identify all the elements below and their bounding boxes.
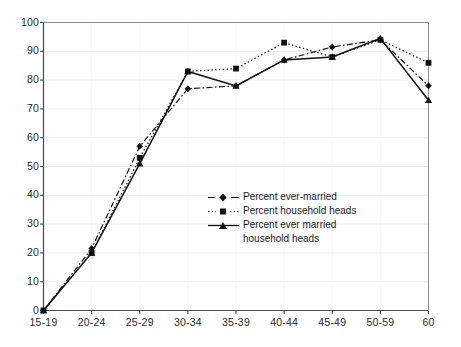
y-axis-tick-label: 30 (6, 217, 39, 229)
legend-key-square-dotted (207, 205, 241, 217)
legend-item-ever-married: Percent ever-married (207, 191, 356, 203)
y-axis-tick-label: 80 (6, 73, 39, 85)
data-point (281, 40, 287, 46)
y-axis-tick-label: 40 (6, 188, 39, 200)
chart-legend: Percent ever-married Percent household h… (207, 191, 356, 245)
y-axis-tick-label: 10 (6, 275, 39, 287)
legend-label-ever-married-household-heads: Percent ever married (241, 219, 336, 231)
y-axis-tick-label: 50 (6, 160, 39, 172)
legend-item-household-heads: Percent household heads (207, 205, 356, 217)
data-point (426, 60, 432, 66)
legend-item-ever-married-household-heads: Percent ever married (207, 219, 356, 231)
line-chart: 0102030405060708090100 15-1920-2425-2930… (0, 0, 461, 347)
x-axis-tick-label: 60 (401, 316, 457, 328)
y-axis-tick-label: 60 (6, 131, 39, 143)
legend-key-triangle-solid (207, 219, 241, 231)
data-point (425, 82, 432, 89)
y-axis-tick-label: 90 (6, 44, 39, 56)
legend-label-ever-married-household-heads-line2: household heads (207, 233, 356, 245)
y-axis-tick-label: 20 (6, 246, 39, 258)
data-point (329, 43, 336, 50)
data-point (233, 66, 239, 72)
plot-area (0, 0, 461, 347)
y-axis-tick-label: 70 (6, 102, 39, 114)
y-axis-tick-label: 0 (6, 304, 39, 316)
legend-key-diamond-dashdot (207, 191, 241, 203)
y-axis-tick-label: 100 (6, 16, 39, 28)
legend-label-ever-married: Percent ever-married (241, 191, 337, 203)
legend-label-household-heads: Percent household heads (241, 205, 356, 217)
